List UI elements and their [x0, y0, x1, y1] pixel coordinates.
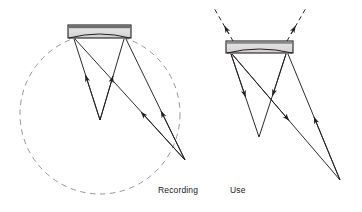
- panel-recording: [20, 25, 185, 194]
- ray-image-right-arrow: [273, 54, 287, 96]
- dashed-output-arrowheads-use: [225, 26, 296, 34]
- holography-figure: Recording Use: [0, 0, 362, 212]
- ray-group-reference-recording: [75, 39, 185, 160]
- ray-group-object-recording: [74, 39, 124, 120]
- plate-top-band-use: [227, 42, 293, 44]
- reference-circle-recording: [20, 34, 180, 194]
- dashed-output-right-arrow: [291, 26, 296, 34]
- dashed-output-left: [214, 8, 233, 41]
- dashed-output-left-arrow: [225, 26, 230, 34]
- ray-object-left-arrow: [86, 75, 101, 120]
- ray-group-image-use: [231, 54, 286, 137]
- dashed-output-right: [287, 8, 306, 41]
- ray-reference-outer-arrow: [161, 111, 185, 160]
- hologram-plate-recording: [68, 25, 131, 38]
- ray-reading-inner-arrow: [314, 117, 340, 180]
- hologram-plate-use: [226, 41, 293, 53]
- caption-recording: Recording: [158, 185, 198, 195]
- ray-image-left-arrow: [231, 54, 246, 97]
- plate-top-band-recording: [69, 26, 131, 29]
- figure-canvas: [0, 0, 362, 212]
- panel-use: [214, 8, 340, 180]
- dashed-output-rays-use: [214, 8, 306, 41]
- ray-reading-outer-arrow: [232, 54, 289, 121]
- ray-reference-inner-arrow: [141, 112, 185, 160]
- ray-group-reading-use: [232, 54, 340, 180]
- ray-object-right-arrow: [100, 76, 113, 120]
- caption-use: Use: [230, 185, 246, 195]
